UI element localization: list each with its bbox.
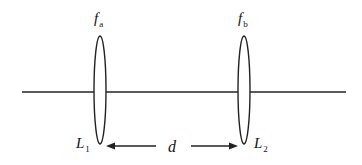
distance-arrow-right [191,143,238,150]
distance-arrow-left [106,143,156,150]
lens-1 [94,36,106,144]
lens-label-2: L2 [254,136,268,151]
focal-label-a: fa [94,11,103,26]
separation-label: d [168,139,176,155]
lens-diagram [0,0,362,165]
focal-label-b: fb [238,11,248,26]
lens-label-1: L1 [76,136,90,151]
lens-2 [238,36,250,144]
